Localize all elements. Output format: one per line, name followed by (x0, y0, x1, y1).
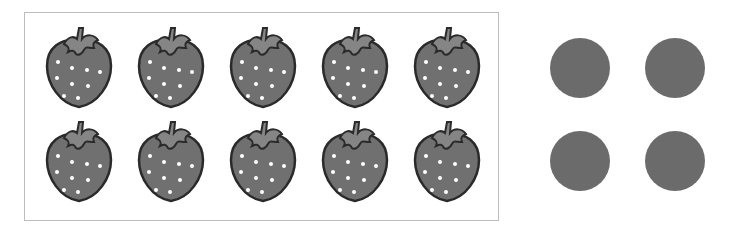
strawberry-icon (410, 24, 484, 110)
strawberry-icon (42, 118, 116, 204)
counter-dot (550, 131, 610, 191)
strawberry-icon (134, 24, 208, 110)
counter-dot (550, 38, 610, 98)
strawberry-icon (42, 24, 116, 110)
strawberry-icon (226, 24, 300, 110)
strawberry-icon (318, 118, 392, 204)
strawberry-icon (134, 118, 208, 204)
counter-dot (645, 38, 705, 98)
strawberry-icon (410, 118, 484, 204)
counter-dot (645, 131, 705, 191)
strawberry-icon (226, 118, 300, 204)
strawberry-icon (318, 24, 392, 110)
